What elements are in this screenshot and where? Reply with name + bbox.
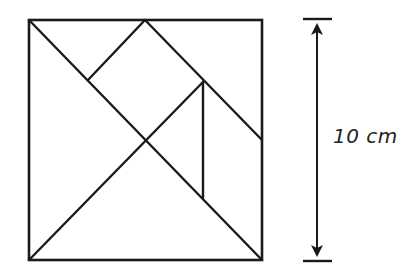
parallelogram-top-left-edge (88, 20, 145, 80)
dimension-label: 10 cm (333, 124, 398, 148)
dimension-indicator (303, 19, 332, 261)
tangram-square (29, 20, 262, 260)
